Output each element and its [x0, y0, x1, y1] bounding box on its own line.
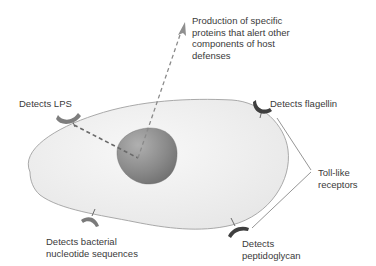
lps-label: Detects LPS: [19, 98, 72, 110]
peptidoglycan-label: Detects peptidoglycan: [242, 238, 301, 261]
nucleotide-label: Detects bacterial nucleotide sequences: [46, 236, 138, 259]
arrowhead-icon: [178, 22, 186, 36]
diagram-canvas: [0, 0, 376, 266]
production-label: Production of specific proteins that ale…: [192, 15, 290, 61]
flagellin-label: Detects flagellin: [270, 98, 337, 110]
tlr-label: Toll-like receptors: [318, 167, 358, 190]
